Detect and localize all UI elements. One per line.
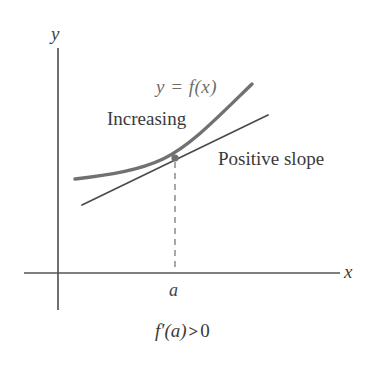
y-axis-label: y	[51, 24, 59, 43]
x-tick-label-a: a	[169, 281, 178, 299]
caption-value: 0	[200, 320, 210, 341]
increasing-annotation: Increasing	[107, 109, 186, 128]
caption-relation: >	[187, 322, 201, 341]
positive-slope-annotation: Positive slope	[218, 149, 324, 168]
x-axis-label: x	[344, 262, 352, 281]
figure-caption: f′(a)>0	[155, 321, 210, 340]
caption-argument: (a)	[164, 320, 186, 341]
derivative-increasing-figure: y x a y = f(x) Increasing Positive slope…	[0, 0, 370, 368]
tangent-point-marker	[171, 154, 178, 161]
figure-canvas	[0, 0, 370, 368]
curve-equation-label: y = f(x)	[156, 77, 217, 96]
